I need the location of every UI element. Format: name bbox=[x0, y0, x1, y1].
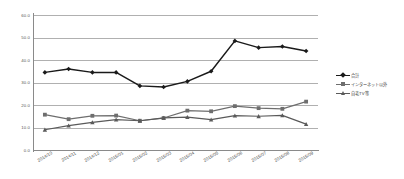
x-axis-tick-label: 2015/09 bbox=[286, 154, 326, 160]
data-point-marker bbox=[114, 114, 118, 118]
data-point-marker bbox=[185, 109, 189, 113]
legend-item[interactable]: 合計 bbox=[336, 71, 402, 80]
data-point-marker bbox=[280, 107, 284, 111]
data-point-marker bbox=[66, 67, 71, 72]
data-point-marker bbox=[256, 45, 261, 50]
legend-marker-icon bbox=[336, 90, 350, 97]
legend-label: 自宅TV等 bbox=[351, 91, 369, 97]
series-group bbox=[43, 100, 308, 123]
legend-marker-icon bbox=[336, 72, 350, 79]
data-point-marker bbox=[304, 49, 309, 54]
chart-legend: 合計インターネット以外自宅TV等 bbox=[336, 71, 402, 98]
data-point-marker bbox=[280, 44, 285, 49]
legend-item[interactable]: インターネット以外 bbox=[336, 80, 402, 89]
data-point-marker bbox=[90, 114, 94, 118]
data-point-marker bbox=[185, 79, 190, 84]
data-point-marker bbox=[304, 100, 308, 104]
series-group bbox=[43, 39, 309, 90]
series-group bbox=[43, 113, 309, 131]
legend-marker-shape bbox=[340, 72, 346, 78]
data-point-marker bbox=[90, 70, 95, 75]
legend-item[interactable]: 自宅TV等 bbox=[336, 89, 402, 98]
legend-marker-icon bbox=[336, 81, 350, 88]
data-point-marker bbox=[233, 104, 237, 108]
line-chart: 60.050.040.030.020.010.00.0 2014/102014/… bbox=[0, 0, 404, 179]
data-point-marker bbox=[43, 113, 47, 117]
data-point-marker bbox=[43, 70, 48, 75]
legend-marker-shape bbox=[341, 91, 345, 95]
series-line bbox=[45, 41, 306, 87]
data-point-marker bbox=[209, 109, 213, 113]
legend-marker-shape bbox=[341, 82, 345, 86]
data-point-marker bbox=[67, 117, 71, 121]
data-point-marker bbox=[161, 85, 166, 90]
legend-label: インターネット以外 bbox=[351, 82, 387, 88]
data-point-marker bbox=[257, 106, 261, 110]
legend-label: 合計 bbox=[351, 73, 359, 79]
